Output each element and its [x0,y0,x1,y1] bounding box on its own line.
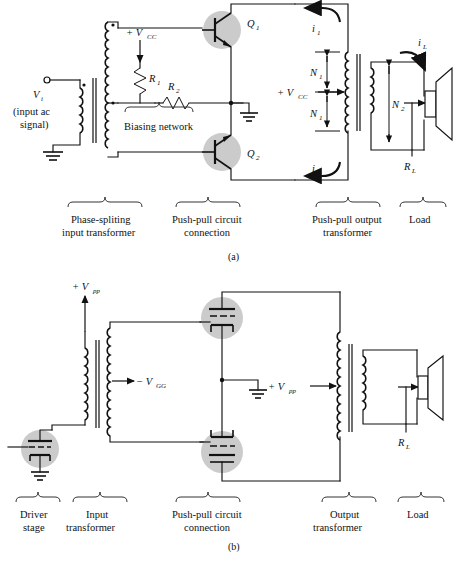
current-il: i L [400,37,427,70]
rl-sub-a: L [411,167,416,175]
speaker-body-b [418,376,428,399]
section-a-2-line2: transformer [323,227,372,238]
vcc-left-label: + V [126,27,144,38]
ground-driver [31,472,49,480]
vi-desc-2: signal) [20,119,49,131]
output-transformer-b: + V pp [268,292,417,481]
input-transformer-b: + V pp − V GG [72,281,210,442]
n1-top-dimension [315,52,340,92]
i1-label: i [312,23,315,34]
section-a-1-line1: Push-pull circuit [172,214,242,225]
biasing-network-label: Biasing network [124,121,194,132]
load-speaker-a: R L i L [400,37,452,175]
rl-sub-b: L [405,443,410,451]
output-secondary-winding [371,68,374,113]
brace-output-transformer: Output transformer [313,492,376,533]
brace-input-transformer: Input transformer [66,492,127,533]
vpp-right-sub: pp [288,387,297,395]
speaker-body [425,91,436,117]
section-b-0-line2: stage [23,522,45,533]
vpp-left-sub: pp [92,287,101,295]
section-b-1-line2: transformer [66,522,115,533]
section-b-2-line2: connection [184,522,231,533]
il-sub: L [422,43,427,51]
vi-desc-1: (input ac [13,106,50,118]
brace-driver-stage: Driver stage [16,492,60,533]
vcc-left-sub: CC [147,33,157,41]
push-pull-tube-top [200,292,340,380]
n1-bot-sub: 1 [319,114,323,122]
q2-label: Q [247,148,255,159]
vi-label: V [33,89,41,100]
b-output-secondary-winding [363,356,366,410]
speaker-cone [436,68,452,140]
resistor-r1 [134,62,146,103]
r2-sub: 2 [176,87,180,95]
current-i1: i 1 [305,8,340,37]
panel-b: + V pp − V GG [8,281,444,553]
section-a-2-line1: Push-pull output [312,214,382,225]
rl-label-b: R [397,437,405,448]
brace-push-pull-connection: Push-pull circuit connection [172,197,242,238]
section-b-2-line1: Push-pull circuit [172,509,242,520]
rl-label-a: R [403,161,411,172]
section-b-1-line1: Input [86,509,108,520]
brace-load-b: Load [398,492,444,520]
section-a-0-line2: input transformer [62,227,136,238]
push-pull-tube-bottom [200,380,340,481]
section-b-3-line2: transformer [313,522,362,533]
vi-sub: i [41,95,43,103]
ground-emitters [240,113,258,121]
il-label: i [418,37,421,48]
brace-pushpull-connection-b: Push-pull circuit connection [172,492,242,533]
r2-label: R [167,81,175,92]
driver-stage-tube [8,425,85,480]
vgg-sub: GG [156,382,166,390]
r1-sub: 1 [157,79,161,87]
vpp-left-label: + V [72,281,90,292]
vcc-right-label: + V [277,87,295,98]
current-i2: i 2 [305,162,340,177]
primary-winding [80,88,83,133]
panel-a-label: (a) [228,251,239,263]
polarity-dot-primary [82,83,85,86]
output-transformer-a: + V CC N 1 N 1 [277,4,424,180]
ground-input [43,152,63,160]
n2-label: N [391,99,400,110]
n1-bottom-label: N [309,108,318,119]
section-a-0-line1: Phase-spliting [71,214,131,225]
section-a-3-line1: Load [409,214,431,225]
vcc-right-sub: CC [298,93,308,101]
ground-pushpull-b [249,390,267,398]
b-primary-winding [85,348,88,420]
figure-push-pull-amplifier-circuits: V i (input ac signal) [0,0,470,561]
section-b-3-line1: Output [330,509,359,520]
section-a-1-line2: connection [184,227,231,238]
panel-a: V i (input ac signal) [13,4,452,263]
brace-push-pull-output: Push-pull output transformer [312,197,382,238]
section-b-0-line1: Driver [20,509,48,520]
section-braces-a: Phase-spliting input transformer Push-pu… [62,197,446,263]
section-b-4-line1: Load [407,509,429,520]
transistor-q2: Q 2 [202,103,295,180]
load-speaker-b: R L [397,350,443,451]
brace-load: Load [400,197,446,225]
i2-label: i [312,163,315,174]
vgg-label: − V [136,376,154,387]
input-terminal [44,77,50,83]
r1-label: R [148,73,156,84]
b-output-primary-winding [337,332,340,440]
n1-top-label: N [309,67,318,78]
panel-b-label: (b) [228,541,240,553]
q1-sub: 1 [256,24,260,32]
output-primary-winding [345,52,348,133]
q1-label: Q [247,18,255,29]
vpp-right-label: + V [268,381,286,392]
polarity-dot-secondary-top [111,23,114,26]
b-secondary-winding [107,328,110,436]
n1-top-sub: 1 [319,73,323,81]
i2-sub: 2 [317,169,321,177]
phase-splitting-transformer [80,22,202,157]
i1-sub: 1 [317,29,321,37]
input-source-group: V i (input ac signal) [13,77,80,160]
